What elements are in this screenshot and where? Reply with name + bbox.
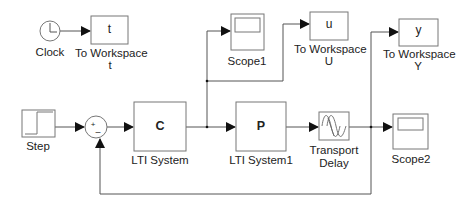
lti-system-c-content: C: [134, 119, 186, 133]
scope2-block[interactable]: [393, 114, 428, 149]
to-workspace-t-content: t: [91, 22, 128, 36]
lti-system-c-label: LTI System: [120, 154, 200, 166]
branch-point: [206, 126, 209, 129]
scope2-label: Scope2: [386, 153, 436, 165]
lti-system-p-label: LTI System1: [221, 154, 301, 166]
clock-label: Clock: [28, 46, 72, 58]
transport-delay-block[interactable]: [319, 112, 349, 140]
to-workspace-u-content: u: [310, 17, 348, 31]
signal-branch-to-scope1[interactable]: [207, 31, 230, 127]
lti-system-p-content: P: [236, 119, 286, 133]
clock-block[interactable]: [40, 21, 60, 41]
step-label: Step: [18, 140, 58, 152]
to-workspace-t-label: To Workspace: [75, 47, 145, 59]
scope1-label: Scope1: [222, 55, 272, 67]
diagram-canvas: [0, 0, 468, 202]
transport-delay-label-line2: Delay: [309, 157, 359, 169]
to-workspace-t-variable: t: [75, 59, 145, 71]
scope-icon: [235, 18, 260, 32]
signal-branch-to-workspace-y[interactable]: [371, 32, 398, 127]
to-workspace-y-variable: Y: [383, 60, 453, 72]
transport-delay-label: Transport: [309, 144, 359, 156]
to-workspace-y-content: y: [399, 23, 438, 37]
sum-minus-sign: –: [93, 126, 103, 138]
step-block[interactable]: [22, 110, 55, 137]
to-workspace-u-variable: U: [294, 55, 364, 67]
branch-point: [370, 126, 373, 129]
branch-point: [206, 80, 209, 83]
scope-icon: [398, 118, 423, 130]
to-workspace-y-label: To Workspace: [383, 48, 453, 60]
to-workspace-u-label: To Workspace: [294, 43, 364, 55]
scope1-block[interactable]: [231, 14, 264, 50]
